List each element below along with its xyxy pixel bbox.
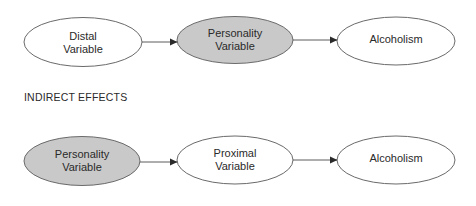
label-proximal-variable: Proximal Variable <box>214 147 257 173</box>
section-heading-indirect-effects: INDIRECT EFFECTS <box>24 91 127 103</box>
label-alcoholism-top: Alcoholism <box>369 33 422 46</box>
label-distal-variable: Distal Variable <box>63 30 103 56</box>
label-alcoholism-bottom: Alcoholism <box>369 152 422 165</box>
label-personality-variable-bottom: Personality Variable <box>55 148 109 174</box>
label-personality-variable-top: Personality Variable <box>208 27 262 53</box>
